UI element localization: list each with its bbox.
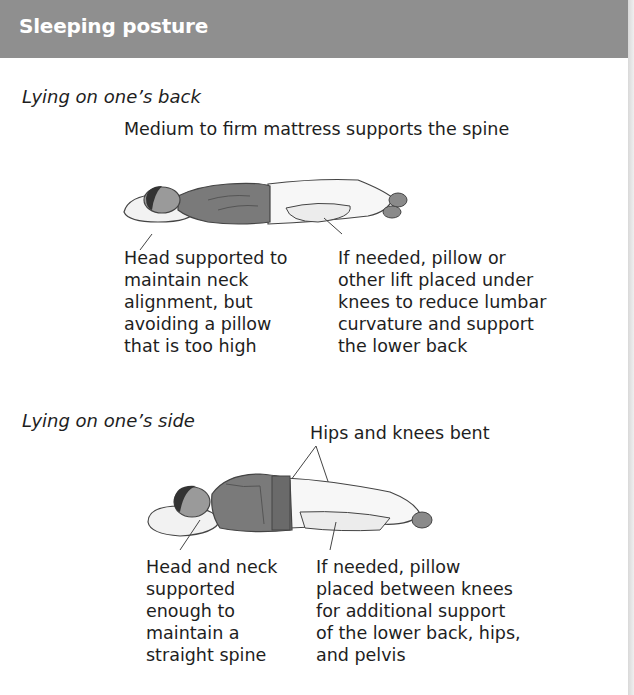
section-label-back: Lying on one’s back: [22, 86, 201, 107]
note-head-support-back: Head supported to maintain neck alignmen…: [124, 247, 288, 357]
person-lying-on-side-icon: [140, 440, 440, 550]
note-knee-pillow-side: If needed, pillow placed between knees f…: [316, 556, 521, 666]
caption-mattress: Medium to firm mattress supports the spi…: [124, 118, 509, 140]
page-edge-divider: [628, 0, 634, 695]
header-bar: Sleeping posture: [0, 0, 628, 58]
note-head-neck-side: Head and neck supported enough to mainta…: [146, 556, 277, 666]
note-knee-pillow-back: If needed, pillow or other lift placed u…: [338, 247, 546, 357]
section-label-side: Lying on one’s side: [22, 410, 195, 431]
page-title: Sleeping posture: [19, 14, 208, 38]
person-lying-on-back-icon: [118, 160, 408, 250]
